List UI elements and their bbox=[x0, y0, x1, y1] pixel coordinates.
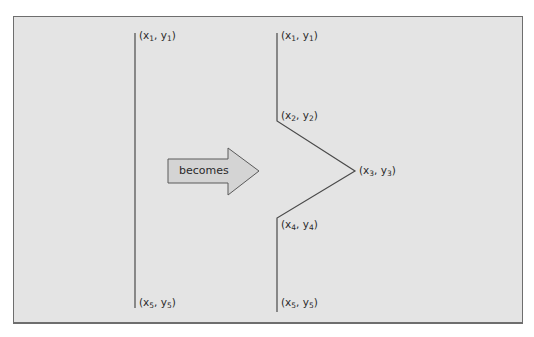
right-point-5-label: (x5, y5) bbox=[281, 296, 318, 310]
left-point-1-label: (x1, y1) bbox=[139, 29, 176, 43]
right-point-3-label: (x3, y3) bbox=[359, 164, 396, 178]
right-point-2-label: (x2, y2) bbox=[281, 109, 318, 123]
right-point-1-label: (x1, y1) bbox=[281, 29, 318, 43]
right-polyline bbox=[277, 33, 355, 312]
left-point-5-label: (x5, y5) bbox=[139, 296, 176, 310]
right-point-4-label: (x4, y4) bbox=[281, 218, 318, 232]
arrow-label: becomes bbox=[179, 164, 229, 177]
diagram-canvas bbox=[0, 0, 534, 337]
